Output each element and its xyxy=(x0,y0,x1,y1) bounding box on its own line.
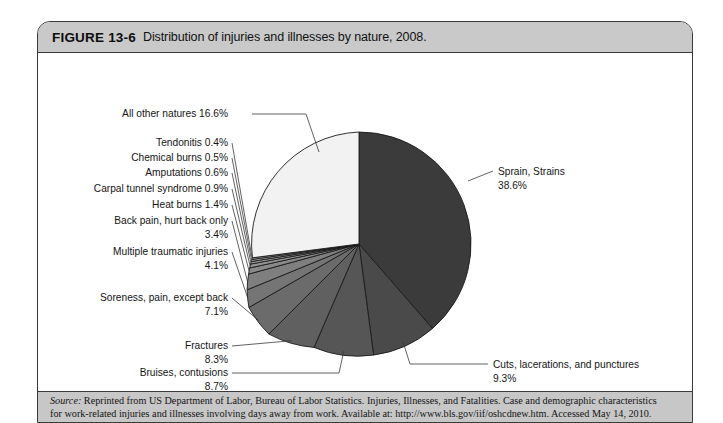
label-multiple-traumatic: Multiple traumatic injuries xyxy=(113,246,228,257)
label-back-pain: Back pain, hurt back only xyxy=(114,215,229,226)
label-sprain-strains: Sprain, Strains xyxy=(498,166,565,177)
label-fractures: Fractures xyxy=(185,340,228,351)
leader-carpal-tunnel xyxy=(232,189,250,266)
pie-chart: All other natures 16.6% Tendonitis 0.4% … xyxy=(38,53,692,391)
figure-number: FIGURE 13-6 xyxy=(52,30,136,45)
source-text-1: Reprinted from US Department of Labor, B… xyxy=(81,395,656,406)
figure-source-footer: Source: Reprinted from US Department of … xyxy=(38,391,692,422)
label-heat-burns: Heat burns 1.4% xyxy=(152,199,228,210)
leader-back-pain xyxy=(232,221,248,282)
slice-all-other-natures[interactable] xyxy=(252,132,359,258)
label-back-pain-value: 3.4% xyxy=(205,229,228,240)
leader-cuts-lacerations xyxy=(403,342,488,364)
label-carpal-tunnel: Carpal tunnel syndrome 0.9% xyxy=(94,183,228,194)
source-label: Source: xyxy=(50,395,81,406)
right-labels: Sprain, Strains 38.6% Cuts, lacerations,… xyxy=(493,166,639,384)
label-cuts-lacerations-value: 9.3% xyxy=(493,373,516,384)
left-labels: All other natures 16.6% Tendonitis 0.4% … xyxy=(94,108,229,391)
leader-chemical-burns xyxy=(232,158,252,261)
leader-fractures xyxy=(232,341,292,346)
label-soreness: Soreness, pain, except back xyxy=(100,292,229,303)
leader-amputations xyxy=(232,173,251,263)
pie-slices xyxy=(247,132,471,356)
label-sprain-strains-value: 38.6% xyxy=(498,180,527,191)
label-all-other-natures: All other natures 16.6% xyxy=(122,108,228,119)
label-fractures-value: 8.3% xyxy=(205,354,228,365)
label-bruises-value: 8.7% xyxy=(205,381,228,391)
figure-container: FIGURE 13-6 Distribution of injuries and… xyxy=(37,21,693,423)
figure-caption: Distribution of injuries and illnesses b… xyxy=(143,30,427,44)
label-amputations: Amputations 0.6% xyxy=(145,167,228,178)
leader-bruises xyxy=(232,351,344,373)
figure-body: All other natures 16.6% Tendonitis 0.4% … xyxy=(38,53,692,391)
label-cuts-lacerations: Cuts, lacerations, and punctures xyxy=(493,359,639,370)
label-bruises: Bruises, contusions xyxy=(140,367,228,378)
label-multiple-traumatic-value: 4.1% xyxy=(205,260,228,271)
label-chemical-burns: Chemical burns 0.5% xyxy=(131,152,228,163)
label-soreness-value: 7.1% xyxy=(205,306,228,317)
leader-sprain-strains xyxy=(468,171,493,181)
label-tendonitis: Tendonitis 0.4% xyxy=(156,137,228,148)
figure-header: FIGURE 13-6 Distribution of injuries and… xyxy=(38,22,692,53)
source-line-2: for work-related injuries and illnesses … xyxy=(50,408,682,421)
source-line-1: Source: Reprinted from US Department of … xyxy=(50,395,682,408)
